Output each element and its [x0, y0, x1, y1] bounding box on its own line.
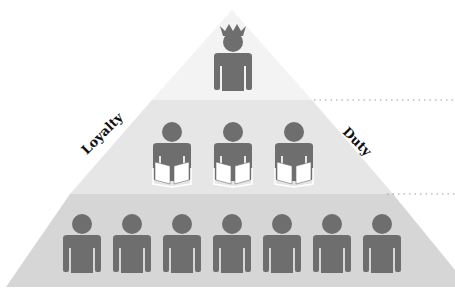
pyramid-diagram: Loyalty Duty	[0, 0, 455, 294]
